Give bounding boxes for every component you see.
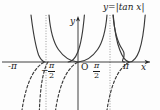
- tan-dashed-branch-origin-left: [56, 62, 78, 110]
- x-axis-label: x: [141, 63, 146, 72]
- x-tick-label-neg-pi: -π: [8, 62, 17, 71]
- abs-tan-branch-pi-approach: [113, 15, 129, 62]
- tangent-absolute-value-figure: y=|tan x| y O x -π − π 2 π 2 π: [0, 0, 160, 110]
- x-tick-pi-over-2-denominator: 2: [93, 72, 100, 80]
- title-rhs: |tan x|: [116, 2, 145, 12]
- title-eq: =: [108, 2, 116, 12]
- x-tick-label-neg-pi-over-2: π 2: [48, 62, 55, 80]
- x-tick-neg-pi-over-2-numerator: π: [48, 62, 55, 70]
- abs-tan-branch-pos-left: [113, 15, 125, 62]
- x-tick-neg-pi-over-2-denominator: 2: [48, 72, 55, 80]
- abs-tan-branch-right-outer: [130, 15, 145, 62]
- x-tick-pi-over-2-numerator: π: [93, 62, 100, 70]
- origin-label: O: [81, 63, 88, 72]
- plot-canvas: [0, 0, 160, 110]
- x-tick-label-pi-over-2: π 2: [93, 62, 100, 80]
- y-axis-label: y: [70, 17, 75, 26]
- abs-tan-solid-curves: [31, 15, 145, 62]
- x-tick-label-pi: π: [123, 62, 129, 71]
- tan-negative-dashed-curves: [22, 62, 129, 110]
- abs-tan-branch-center-right: [78, 15, 107, 62]
- curve-equation-label: y=|tan x|: [103, 2, 144, 12]
- abs-tan-branch-left-outer: [31, 15, 45, 62]
